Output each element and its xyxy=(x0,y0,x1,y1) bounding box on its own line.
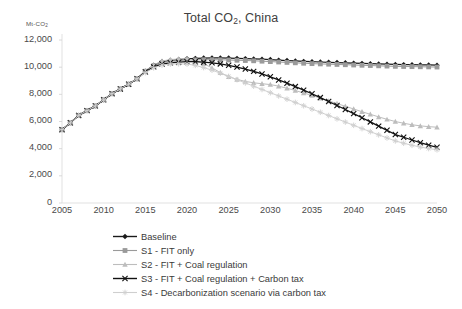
legend-marker-icon xyxy=(112,286,138,299)
data-point-marker xyxy=(376,63,381,68)
data-point-marker xyxy=(226,74,232,80)
data-point-marker xyxy=(318,109,324,115)
data-point-marker xyxy=(384,128,389,133)
data-point-marker xyxy=(393,138,399,144)
data-point-marker xyxy=(243,58,248,63)
data-point-marker xyxy=(435,65,440,70)
data-point-marker xyxy=(359,126,365,132)
data-point-marker xyxy=(243,80,249,86)
legend-label: S3 - FIT + Coal regulation + Carbon tax xyxy=(141,274,304,284)
data-point-marker xyxy=(409,142,415,148)
legend-marker-icon xyxy=(112,258,138,271)
data-point-marker xyxy=(401,140,407,146)
data-point-marker xyxy=(318,62,323,67)
series-1 xyxy=(59,55,439,132)
data-point-marker xyxy=(276,60,281,65)
data-point-marker xyxy=(376,124,381,129)
data-point-marker xyxy=(301,103,307,109)
data-point-marker xyxy=(393,64,398,69)
data-point-marker xyxy=(334,116,340,122)
data-point-marker xyxy=(218,70,224,76)
legend-item[interactable]: S3 - FIT + Coal regulation + Carbon tax xyxy=(112,272,326,285)
legend-item[interactable]: S4 - Decarbonization scenario via carbon… xyxy=(112,286,326,299)
data-point-marker xyxy=(376,132,382,138)
legend-label: Baseline xyxy=(141,232,177,242)
legend-item[interactable]: S1 - FIT only xyxy=(112,244,326,257)
data-point-marker xyxy=(351,63,356,68)
data-point-marker xyxy=(193,63,199,69)
data-point-marker xyxy=(268,90,274,96)
data-point-marker xyxy=(351,123,357,129)
data-point-marker xyxy=(385,64,390,69)
legend-label: S1 - FIT only xyxy=(141,246,194,256)
data-point-marker xyxy=(284,81,289,86)
data-point-marker xyxy=(368,129,374,135)
data-point-marker xyxy=(201,65,207,71)
data-point-marker xyxy=(168,61,174,67)
data-point-marker xyxy=(418,144,424,150)
legend-item[interactable]: S2 - FIT + Coal regulation xyxy=(112,258,326,271)
data-point-marker xyxy=(326,62,331,67)
data-point-marker xyxy=(122,290,128,296)
data-point-marker xyxy=(335,62,340,67)
data-point-marker xyxy=(359,115,364,120)
data-point-marker xyxy=(310,61,315,66)
data-point-marker xyxy=(176,61,182,67)
data-point-marker xyxy=(209,67,215,73)
data-point-marker xyxy=(351,111,356,116)
data-point-marker xyxy=(122,234,127,239)
data-point-marker xyxy=(285,60,290,65)
legend-item[interactable]: Baseline xyxy=(112,230,326,243)
series-2 xyxy=(60,57,440,132)
data-point-marker xyxy=(418,64,423,69)
data-point-marker xyxy=(410,64,415,69)
data-point-marker xyxy=(276,93,282,99)
data-point-marker xyxy=(434,147,440,153)
data-point-marker xyxy=(326,113,332,119)
series-line xyxy=(62,64,437,150)
legend-marker-icon xyxy=(112,272,138,285)
data-point-marker xyxy=(151,65,157,71)
data-point-marker xyxy=(259,87,265,93)
data-point-marker xyxy=(251,58,256,63)
data-point-marker xyxy=(360,63,365,68)
data-point-marker xyxy=(426,64,431,69)
data-point-marker xyxy=(293,100,299,106)
data-point-marker xyxy=(260,59,265,64)
data-point-marker xyxy=(123,248,128,253)
legend-label: S2 - FIT + Coal regulation xyxy=(141,260,248,270)
data-point-marker xyxy=(343,119,349,125)
legend-marker-icon xyxy=(112,230,138,243)
data-point-marker xyxy=(284,96,290,102)
chart-container: Total CO2, China Mt-CO2 02,0004,0006,000… xyxy=(0,0,462,309)
data-point-marker xyxy=(426,146,432,152)
data-point-marker xyxy=(401,64,406,69)
data-point-marker xyxy=(368,63,373,68)
data-point-marker xyxy=(368,119,373,124)
data-point-marker xyxy=(301,61,306,66)
legend-marker-icon xyxy=(112,244,138,257)
data-point-marker xyxy=(343,62,348,67)
data-point-marker xyxy=(226,58,231,63)
data-point-marker xyxy=(159,62,165,68)
data-point-marker xyxy=(235,58,240,63)
data-point-marker xyxy=(184,61,190,67)
data-point-marker xyxy=(309,106,315,112)
data-point-marker xyxy=(384,135,390,141)
legend-label: S4 - Decarbonization scenario via carbon… xyxy=(141,288,326,298)
series-5 xyxy=(59,61,440,153)
data-point-marker xyxy=(268,59,273,64)
data-point-marker xyxy=(234,77,240,83)
chart-legend: BaselineS1 - FIT onlyS2 - FIT + Coal reg… xyxy=(112,230,326,299)
series-3 xyxy=(59,56,439,132)
data-point-marker xyxy=(276,77,281,82)
data-point-marker xyxy=(293,60,298,65)
data-point-marker xyxy=(109,91,115,97)
